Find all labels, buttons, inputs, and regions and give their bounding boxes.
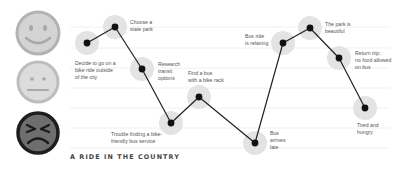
step-label-trouble: Trouble finding a bike- friendly bus ser… (111, 131, 162, 145)
point-bus-relaxing (280, 40, 287, 47)
diagram-title: A RIDE IN THE COUNTRY (70, 153, 180, 161)
point-find-bus (196, 94, 203, 101)
point-choose-park (112, 24, 119, 31)
journey-line (87, 27, 365, 143)
journey-map: Decide to go on a bike ride outside of t… (0, 0, 409, 172)
step-label-park-beautiful: The park is beautiful (325, 21, 351, 35)
point-bus-late (252, 140, 259, 147)
step-label-bus-relaxing: Bus ride is relaxing (245, 33, 268, 47)
point-park-beautiful (307, 25, 314, 32)
point-tired (362, 105, 369, 112)
point-research (139, 66, 146, 73)
step-label-return-trip: Return trip; no food allowed on bus (355, 50, 391, 71)
step-label-find-bus: Find a bus with a bike rack (188, 70, 224, 84)
step-label-decide: Decide to go on a bike ride outside of t… (75, 60, 116, 81)
step-label-choose-park: Choose a state park (130, 19, 153, 33)
point-return-trip (336, 55, 343, 62)
neutral-face-icon (18, 62, 58, 102)
step-label-tired: Tired and hungry (357, 122, 379, 136)
point-decide (84, 40, 91, 47)
gridlines (70, 27, 390, 148)
happy-face-icon (17, 12, 59, 54)
step-label-bus-late: Bus arrives late (270, 130, 286, 151)
point-trouble (168, 120, 175, 127)
angry-face-icon (18, 113, 58, 153)
step-label-research: Research transit options (158, 61, 180, 82)
